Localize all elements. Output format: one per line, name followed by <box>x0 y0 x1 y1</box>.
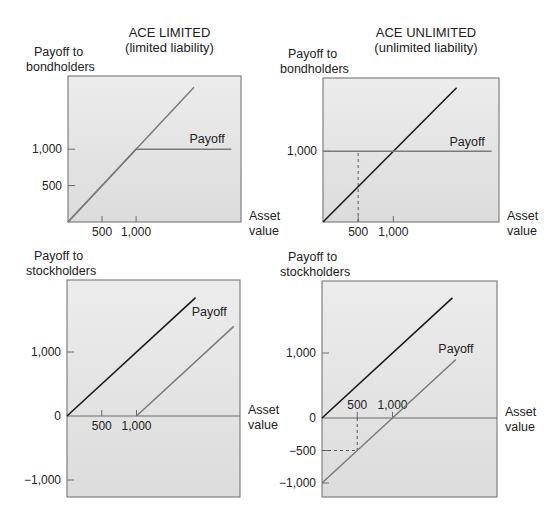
y-tick-label: 0 <box>54 409 61 423</box>
column-subtitle: (limited liability) <box>125 40 214 55</box>
y-axis-label-line2: bondholders <box>26 60 95 74</box>
y-tick-label: 1,000 <box>287 144 317 158</box>
y-tick-label: −1,000 <box>279 476 316 490</box>
x-axis-label-line2: value <box>507 224 537 238</box>
y-axis-label-line2: bondholders <box>280 62 349 76</box>
payoff-annotation: Payoff <box>192 305 228 319</box>
y-tick-label: −500 <box>289 444 316 458</box>
x-axis-label-line1: Asset <box>249 209 281 223</box>
payoff-annotation: Payoff <box>438 342 474 356</box>
y-tick-label: 0 <box>309 411 316 425</box>
payoff-annotation: Payoff <box>449 135 485 149</box>
column-subtitle: (unlimited liability) <box>374 40 477 55</box>
x-tick-label: 500 <box>347 398 367 412</box>
panel-limited-stockholders: Payoff tostockholdersAssetvalue5001,0001… <box>24 249 280 497</box>
y-axis-label-line1: Payoff to <box>34 249 83 263</box>
panel-limited-bondholders: ACE LIMITED(limited liability)Payoff tob… <box>26 25 281 239</box>
chart-canvas: ACE LIMITED(limited liability)Payoff tob… <box>0 0 557 530</box>
column-title: ACE LIMITED <box>129 25 211 40</box>
plot-area <box>323 78 499 222</box>
y-tick-label: 1,000 <box>31 345 61 359</box>
x-tick-label: 1,000 <box>377 398 407 412</box>
y-axis-label-line2: stockholders <box>280 265 350 279</box>
y-axis-label-line1: Payoff to <box>288 250 337 264</box>
panel-unlimited-stockholders: Payoff tostockholdersAssetvalue5001,0001… <box>279 250 537 497</box>
x-axis-label-line1: Asset <box>507 209 539 223</box>
y-tick-label: 1,000 <box>286 346 316 360</box>
x-axis-label-line2: value <box>505 420 535 434</box>
plot-area <box>322 281 497 497</box>
panel-unlimited-bondholders: ACE UNLIMITED(unlimited liability)Payoff… <box>280 25 539 239</box>
x-tick-label: 1,000 <box>121 419 151 433</box>
y-tick-label: −1,000 <box>24 473 61 487</box>
x-tick-label: 1,000 <box>121 225 151 239</box>
y-axis-label-line2: stockholders <box>26 264 96 278</box>
x-axis-label-line2: value <box>248 418 278 432</box>
x-tick-label: 500 <box>92 419 112 433</box>
y-tick-label: 500 <box>42 179 62 193</box>
y-axis-label-line1: Payoff to <box>288 47 337 61</box>
x-tick-label: 1,000 <box>378 225 408 239</box>
payoff-annotation: Payoff <box>189 132 225 146</box>
x-axis-label-line2: value <box>249 224 279 238</box>
column-title: ACE UNLIMITED <box>376 25 476 40</box>
payoff-diagrams-figure: ACE LIMITED(limited liability)Payoff tob… <box>0 0 557 530</box>
y-tick-label: 1,000 <box>32 142 62 156</box>
x-tick-label: 500 <box>348 225 368 239</box>
x-tick-label: 500 <box>92 225 112 239</box>
x-axis-label-line1: Asset <box>248 403 280 417</box>
x-axis-label-line1: Asset <box>505 405 537 419</box>
y-axis-label-line1: Payoff to <box>34 45 83 59</box>
